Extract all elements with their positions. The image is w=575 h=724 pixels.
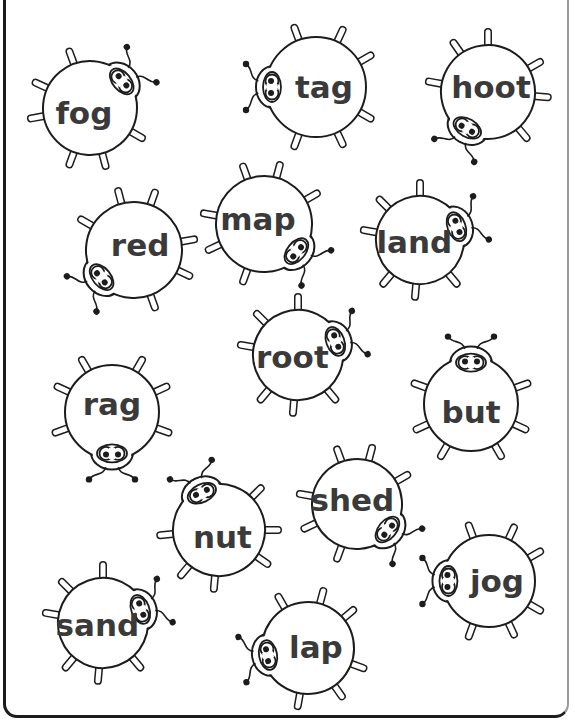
bug-word-fog: fog [55,98,112,129]
bug-word-rag: rag [83,389,141,420]
bug-word-land: land [376,227,452,258]
bug-word-root: root [256,342,329,373]
bug-word-but: but [441,397,500,428]
bug-word-lap: lap [289,631,343,662]
bug-word-sand: sand [56,610,140,641]
bug-word-map: map [220,203,295,234]
bug-word-tag: tag [295,72,353,103]
bug-word-shed: shed [311,485,395,516]
bug-word-jog: jog [470,566,524,597]
bug-word-hoot: hoot [451,71,530,102]
bug-word-red: red [111,229,170,260]
bug-word-nut: nut [193,522,252,553]
